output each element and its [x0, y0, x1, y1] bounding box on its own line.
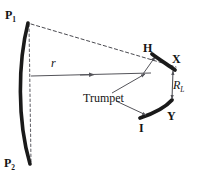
- label-h: H: [143, 42, 152, 54]
- label-radius-r: r: [51, 57, 56, 69]
- label-p2-subscript: 2: [11, 163, 15, 172]
- label-p1-subscript: 1: [12, 15, 16, 24]
- label-x: X: [172, 53, 181, 65]
- label-trumpet: Trumpet: [83, 92, 124, 104]
- label-y: Y: [167, 110, 176, 122]
- diagram-canvas: [0, 0, 199, 179]
- primary-mirror-arc: [20, 23, 30, 164]
- label-rl-subscript: L: [180, 85, 184, 94]
- label-rl: RL: [173, 79, 184, 94]
- ray-to-h-arrow: [143, 57, 155, 74]
- label-p2: P2: [4, 157, 15, 172]
- optical-axis-dashed-line: [29, 24, 31, 163]
- trumpet-reflector-figure: P1 P2 r H X I Y RL Trumpet: [0, 0, 199, 179]
- label-i: I: [139, 122, 144, 134]
- label-p1: P1: [5, 9, 16, 24]
